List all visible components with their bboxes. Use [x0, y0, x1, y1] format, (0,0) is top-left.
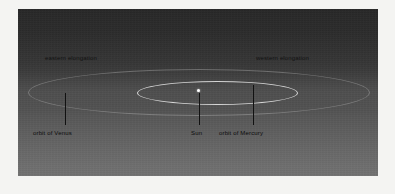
label-orbit-of-venus: orbit of Venus [33, 129, 72, 137]
mercury-orbit-ellipse [137, 81, 298, 105]
label-sun: Sun [191, 129, 202, 137]
diagram-panel: eastern elongation western elongation or… [18, 9, 378, 176]
leader-line-venus [65, 93, 66, 125]
leader-line-sun [199, 93, 200, 125]
diagram-canvas: eastern elongation western elongation or… [0, 0, 395, 194]
sun-marker [197, 89, 200, 92]
label-western-elongation: western elongation [256, 54, 309, 62]
label-orbit-of-mercury: orbit of Mercury [219, 129, 263, 137]
label-eastern-elongation: eastern elongation [45, 54, 97, 62]
leader-line-mercury [253, 85, 254, 125]
